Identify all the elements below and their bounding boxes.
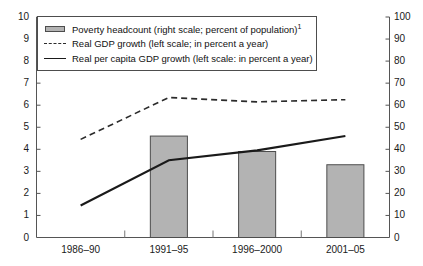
left-axis-tick-4: 4 [7, 144, 29, 154]
line-series-real-gdp-growth [81, 97, 346, 139]
bar-swatch-icon [43, 23, 67, 35]
chart-legend: Poverty headcount (right scale; percent … [37, 16, 317, 71]
category-label-1: 1991–95 [124, 245, 214, 255]
legend-item-real-per-capita-gdp-growth: Real per capita GDP growth (left scale: … [43, 51, 311, 66]
legend-label-real-per-capita-gdp-growth: Real per capita GDP growth (left scale: … [72, 54, 313, 64]
legend-label-poverty-headcount: Poverty headcount (right scale; percent … [72, 23, 301, 35]
legend-label-poverty-headcount-text: Poverty headcount (right scale; percent … [72, 24, 298, 35]
bar-1 [150, 136, 187, 237]
category-label-3: 2001–05 [300, 245, 390, 255]
legend-item-poverty-headcount: Poverty headcount (right scale; percent … [43, 21, 311, 36]
left-axis-tick-8: 8 [7, 56, 29, 66]
chart-figure: 012345678910 0102030405060708090100 1986… [0, 0, 423, 266]
right-axis-tick-30: 30 [394, 166, 420, 176]
dashed-line-swatch-icon [43, 38, 67, 50]
legend-footnote-marker: 1 [298, 23, 302, 30]
right-axis-tick-20: 20 [394, 188, 420, 198]
right-axis-tick-0: 0 [394, 233, 420, 243]
left-axis-tick-0: 0 [7, 233, 29, 243]
left-axis-tick-5: 5 [7, 122, 29, 132]
right-axis-tick-90: 90 [394, 34, 420, 44]
line-series-real-per-capita-gdp-growth [81, 136, 346, 205]
legend-label-real-gdp-growth: Real GDP growth (left scale; in percent … [72, 39, 268, 49]
left-axis-tick-6: 6 [7, 100, 29, 110]
left-axis-tick-10: 10 [7, 12, 29, 22]
left-axis-tick-7: 7 [7, 78, 29, 88]
right-axis-tick-70: 70 [394, 78, 420, 88]
right-axis-tick-60: 60 [394, 100, 420, 110]
right-axis-ticks [386, 17, 390, 238]
left-axis-tick-3: 3 [7, 166, 29, 176]
right-axis-tick-10: 10 [394, 210, 420, 220]
right-axis-tick-40: 40 [394, 144, 420, 154]
right-axis-tick-50: 50 [394, 122, 420, 132]
legend-item-real-gdp-growth: Real GDP growth (left scale; in percent … [43, 36, 311, 51]
category-label-0: 1986–90 [36, 245, 126, 255]
solid-line-swatch-icon [43, 53, 67, 65]
right-axis-tick-100: 100 [394, 12, 420, 22]
left-axis-tick-9: 9 [7, 34, 29, 44]
bar-3 [327, 165, 364, 238]
category-label-2: 1996–2000 [212, 245, 302, 255]
bar-2 [239, 152, 276, 238]
left-axis-tick-2: 2 [7, 188, 29, 198]
right-axis-tick-80: 80 [394, 56, 420, 66]
left-axis-tick-1: 1 [7, 210, 29, 220]
